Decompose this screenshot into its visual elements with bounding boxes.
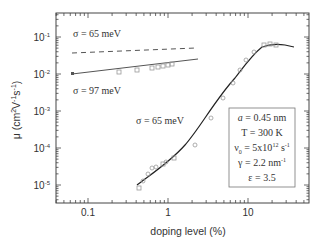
y-axis-label: μ (cm2V-1s-1) [10, 81, 22, 140]
annotation-sigma65-top: σ = 65 meV [73, 28, 122, 39]
annotation-sigma97: σ = 97 meV [73, 85, 122, 96]
svg-text:1: 1 [165, 207, 171, 218]
svg-text:a = 0.45 nm: a = 0.45 nm [238, 112, 287, 123]
svg-text:10-3: 10-3 [34, 106, 51, 117]
marker [71, 72, 74, 75]
svg-text:10-1: 10-1 [34, 32, 51, 43]
svg-text:10-4: 10-4 [34, 143, 51, 154]
svg-text:γ = 2.2 nm-1: γ = 2.2 nm-1 [237, 157, 286, 168]
chart: 10-1 10-2 10-3 10-4 10-5 0.1 1 10 doping… [0, 0, 324, 243]
svg-text:T = 300 K: T = 300 K [241, 127, 283, 138]
svg-text:ε = 3.5: ε = 3.5 [248, 172, 275, 183]
x-tick-labels: 0.1 1 10 [81, 207, 254, 218]
y-tick-labels: 10-1 10-2 10-3 10-4 10-5 [34, 32, 51, 191]
svg-text:10-5: 10-5 [34, 180, 51, 191]
annotation-sigma65-mid: σ = 65 meV [136, 115, 185, 126]
dashed-line-sigma65 [72, 48, 196, 53]
svg-text:0.1: 0.1 [81, 207, 95, 218]
svg-text:10-2: 10-2 [34, 69, 51, 80]
svg-text:10: 10 [242, 207, 254, 218]
x-axis-label: doping level (%) [150, 225, 225, 237]
